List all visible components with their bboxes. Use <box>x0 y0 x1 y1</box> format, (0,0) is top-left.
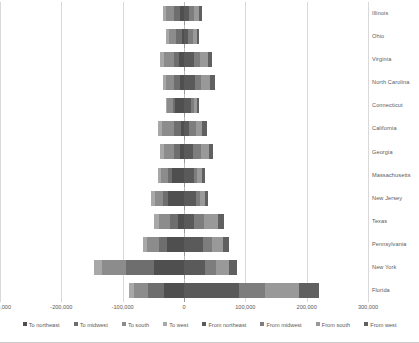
bar-row[interactable] <box>0 233 368 256</box>
bar-segment[interactable] <box>167 237 184 252</box>
bar-segment[interactable] <box>172 168 184 183</box>
bar-row[interactable] <box>0 164 368 187</box>
bar-segment[interactable] <box>204 214 217 229</box>
stacked-bar[interactable] <box>154 214 224 229</box>
bar-segment[interactable] <box>197 29 199 44</box>
bar-segment[interactable] <box>209 144 213 159</box>
bar-segment[interactable] <box>184 98 191 113</box>
bar-segment[interactable] <box>299 283 319 298</box>
bar-segment[interactable] <box>166 75 175 90</box>
bar-segment[interactable] <box>184 168 194 183</box>
bar-segment[interactable] <box>155 191 164 206</box>
bar-row[interactable] <box>0 210 368 233</box>
bar-segment[interactable] <box>218 214 224 229</box>
bar-segment[interactable] <box>200 52 208 67</box>
bar-segment[interactable] <box>184 214 194 229</box>
bar-segment[interactable] <box>184 260 205 275</box>
stacked-bar[interactable] <box>160 144 213 159</box>
bar-row[interactable] <box>0 187 368 210</box>
legend-label: To west <box>169 320 188 330</box>
bar-segment[interactable] <box>202 168 205 183</box>
category-label: Massachusetts <box>372 172 419 179</box>
bar-row[interactable] <box>0 256 368 279</box>
bar-segment[interactable] <box>203 237 212 252</box>
bar-segment[interactable] <box>205 260 216 275</box>
stacked-bar[interactable] <box>129 283 320 298</box>
bar-segment[interactable] <box>159 237 167 252</box>
stacked-bar[interactable] <box>151 191 207 206</box>
bar-segment[interactable] <box>154 260 184 275</box>
bar-segment[interactable] <box>175 98 184 113</box>
bar-segment[interactable] <box>168 191 184 206</box>
bar-segment[interactable] <box>239 283 265 298</box>
bar-segment[interactable] <box>126 260 154 275</box>
bar-row[interactable] <box>0 71 368 94</box>
legend-item[interactable]: From northeast <box>202 319 246 330</box>
category-label: Texas <box>372 218 419 225</box>
bar-segment[interactable] <box>212 237 223 252</box>
bar-segment[interactable] <box>223 237 229 252</box>
bar-segment[interactable] <box>208 52 212 67</box>
bar-segment[interactable] <box>196 121 203 136</box>
stacked-bar[interactable] <box>158 168 205 183</box>
bar-segment[interactable] <box>162 121 174 136</box>
bar-segment[interactable] <box>174 121 181 136</box>
bar-segment[interactable] <box>205 191 208 206</box>
bar-segment[interactable] <box>184 191 196 206</box>
legend-item[interactable]: From west <box>364 319 396 330</box>
legend-item[interactable]: From south <box>316 319 350 330</box>
bar-segment[interactable] <box>229 260 236 275</box>
bar-segment[interactable] <box>159 214 170 229</box>
stacked-bar[interactable] <box>166 98 199 113</box>
legend-item[interactable]: From midwest <box>260 319 301 330</box>
bar-segment[interactable] <box>184 237 203 252</box>
category-axis-labels: IllinoisOhioVirginiaNorth CarolinaConnec… <box>370 2 419 302</box>
bar-segment[interactable] <box>184 283 239 298</box>
stacked-bar[interactable] <box>160 52 212 67</box>
bar-segment[interactable] <box>169 29 176 44</box>
bar-segment[interactable] <box>148 283 164 298</box>
bar-segment[interactable] <box>202 121 207 136</box>
bar-segment[interactable] <box>201 144 210 159</box>
bar-segment[interactable] <box>194 214 204 229</box>
stacked-bar[interactable] <box>143 237 229 252</box>
bar-segment[interactable] <box>147 237 159 252</box>
bar-segment[interactable] <box>164 52 174 67</box>
legend-item[interactable]: To midwest <box>74 319 108 330</box>
legend-label: From midwest <box>267 320 302 330</box>
bar-segment[interactable] <box>265 283 299 298</box>
legend-item[interactable]: To west <box>163 319 188 330</box>
bar-row[interactable] <box>0 279 368 302</box>
legend-swatch-icon <box>23 322 27 326</box>
bar-row[interactable] <box>0 48 368 71</box>
bar-row[interactable] <box>0 2 368 25</box>
bar-row[interactable] <box>0 94 368 117</box>
bar-segment[interactable] <box>170 214 179 229</box>
bar-segment[interactable] <box>161 168 168 183</box>
bar-segment[interactable] <box>166 6 174 21</box>
stacked-bar[interactable] <box>163 6 202 21</box>
stacked-bar[interactable] <box>94 260 236 275</box>
stacked-bar[interactable] <box>166 29 199 44</box>
stacked-bar[interactable] <box>163 75 215 90</box>
bar-segment[interactable] <box>216 260 229 275</box>
bar-row[interactable] <box>0 117 368 140</box>
bar-row[interactable] <box>0 25 368 48</box>
bar-segment[interactable] <box>184 75 195 90</box>
bar-segment[interactable] <box>201 75 210 90</box>
bar-segment[interactable] <box>197 98 199 113</box>
stacked-bar[interactable] <box>158 121 208 136</box>
legend-item[interactable]: To northeast <box>23 319 60 330</box>
bar-segment[interactable] <box>94 260 102 275</box>
bar-segment[interactable] <box>199 6 202 21</box>
bar-segment[interactable] <box>210 75 214 90</box>
bar-segment[interactable] <box>184 144 193 159</box>
bar-segment[interactable] <box>102 260 125 275</box>
bar-row[interactable] <box>0 140 368 163</box>
bar-segment[interactable] <box>134 283 147 298</box>
bar-segment[interactable] <box>164 283 184 298</box>
bar-segment[interactable] <box>193 144 200 159</box>
bar-segment[interactable] <box>164 144 174 159</box>
legend-item[interactable]: To south <box>122 319 149 330</box>
bar-segment[interactable] <box>184 52 194 67</box>
